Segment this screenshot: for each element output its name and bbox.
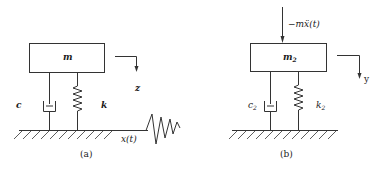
caption-a: (a) bbox=[80, 150, 92, 159]
damper-label-a: c bbox=[16, 101, 21, 110]
caption-b: (b) bbox=[280, 150, 293, 159]
spring-label-a: k bbox=[101, 101, 107, 110]
mass-label-a: m bbox=[63, 53, 73, 62]
spring-a bbox=[73, 73, 82, 130]
force-label: −mẍ(t) bbox=[288, 20, 320, 29]
diagram-canvas: m c k z x(t) (a) −mẍ(t) m2 c2 k2 y (b) bbox=[0, 0, 377, 173]
damper-label-b: c2 bbox=[248, 101, 257, 111]
spring-label-b: k2 bbox=[316, 101, 325, 111]
displacement-label-z: z bbox=[135, 84, 140, 93]
displacement-label-y: y bbox=[364, 75, 369, 84]
base-excitation-label: x(t) bbox=[121, 135, 137, 144]
base-excitation-wave bbox=[146, 114, 180, 144]
diagram-lines bbox=[0, 0, 377, 173]
spring-b bbox=[294, 72, 303, 130]
mass-label-b: m2 bbox=[283, 53, 297, 63]
